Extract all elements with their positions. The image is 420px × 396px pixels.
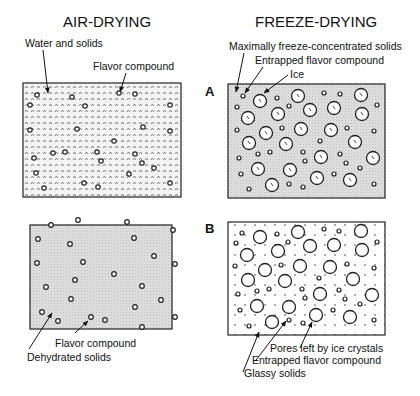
air-drying-a-box: [23, 83, 181, 197]
label-ice: Ice: [290, 68, 304, 80]
freeze-drying-a-panel: Maximally freeze-concentrated solids Ent…: [228, 40, 402, 198]
freeze-drying-title: FREEZE-DRYING: [255, 13, 377, 30]
air-drying-a-panel: Water and solids Flavor compound: [23, 37, 181, 197]
label-glassy-solids: Glassy solids: [244, 367, 306, 379]
label-dehydrated-solids: Dehydrated solids: [27, 351, 111, 363]
label-freeze-concentrated-solids: Maximally freeze-concentrated solids: [229, 40, 402, 52]
drying-diagram: AIR-DRYING FREEZE-DRYING A B Water and s…: [0, 0, 420, 396]
stage-label-b: B: [205, 221, 214, 236]
label-flavor-compound-b: Flavor compound: [55, 337, 136, 349]
air-drying-title: AIR-DRYING: [63, 13, 151, 30]
label-entrapped-flavor-a: Entrapped flavor compound: [255, 54, 384, 66]
stage-label-a: A: [205, 84, 215, 99]
label-entrapped-flavor-b: Entrapped flavor compound: [252, 354, 381, 366]
label-water-and-solids: Water and solids: [25, 37, 103, 49]
arrow-glassy-solids: [243, 332, 259, 372]
air-drying-b-panel: Flavor compound Dehydrated solids: [27, 218, 177, 363]
freeze-drying-b-panel: Pores left by ice crystals Entrapped fla…: [228, 222, 385, 379]
label-flavor-compound-a: Flavor compound: [93, 60, 174, 72]
label-pores: Pores left by ice crystals: [270, 342, 383, 354]
